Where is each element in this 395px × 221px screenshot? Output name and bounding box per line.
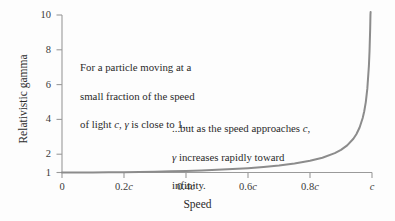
x-tick-0-number: 0 (59, 181, 64, 192)
x-tick-label-c: c (370, 182, 375, 193)
annotation-high-speed-line2-a: increases rapidly toward (176, 151, 284, 163)
annotation-low-speed-line2: small fraction of the speed (80, 89, 250, 103)
annotation-high-speed-line1-a: ...but as the speed approaches (172, 122, 303, 134)
x-tick-label-0: 0 (59, 182, 64, 193)
y-axis-title: Relativistic gamma (17, 29, 29, 169)
annotation-high-speed-line2: γ increases rapidly toward (172, 150, 357, 164)
annotation-low-speed-line3-a: of light (80, 118, 114, 130)
annotation-high-speed: ...but as the speed approaches c, γ incr… (172, 107, 357, 207)
relativistic-gamma-chart: 10 8 6 4 2 1 0 0.2c 0.4c 0.6c 0.8c c Spe… (0, 0, 395, 221)
annotation-low-speed-line1: For a particle moving at a (80, 60, 250, 74)
x-tick-5-unit: c (370, 181, 375, 192)
x-tick-1-number: 0.2 (115, 181, 128, 192)
annotation-high-speed-line1-b: , (308, 122, 311, 134)
y-axis-ticks (57, 15, 63, 173)
y-tick-label-10: 10 (24, 10, 51, 21)
annotation-high-speed-line3: infinity. (172, 178, 357, 192)
x-tick-label-02c: 0.2c (115, 182, 133, 193)
x-tick-1-unit: c (128, 181, 133, 192)
annotation-high-speed-line1: ...but as the speed approaches c, (172, 121, 357, 135)
